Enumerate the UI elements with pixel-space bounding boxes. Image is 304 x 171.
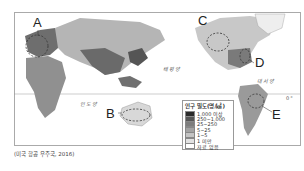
label-a: A — [33, 16, 42, 29]
europe-landmass — [25, 28, 60, 57]
ocean-label-pacific: 태평양 — [163, 65, 181, 72]
legend-item: 자료 없음 — [185, 143, 231, 148]
legend-swatch — [185, 143, 195, 149]
south-america-landmass — [238, 84, 268, 136]
label-d: D — [255, 56, 264, 69]
label-e-leader — [262, 106, 272, 112]
label-b: B — [106, 107, 115, 120]
label-c: C — [198, 14, 207, 27]
equator-mark: 0° — [286, 95, 294, 101]
australia-landmass — [120, 102, 152, 126]
ocean-label-atlantic: 대서양 — [257, 77, 275, 84]
ocean-label-indian: 인도양 — [80, 100, 98, 107]
legend-label: 자료 없음 — [197, 143, 219, 150]
world-population-density-map — [0, 0, 304, 171]
legend-title: 인구 밀도(명/㎢) — [185, 102, 231, 110]
legend: 인구 밀도(명/㎢) 1,000 이상 250~1,000 25~250 5~2… — [182, 100, 234, 150]
label-e: E — [272, 108, 281, 121]
africa-landmass — [26, 56, 66, 118]
source-caption: (미국 항공 우주국, 2016) — [14, 150, 74, 158]
southeast-asia-islands — [118, 76, 142, 88]
